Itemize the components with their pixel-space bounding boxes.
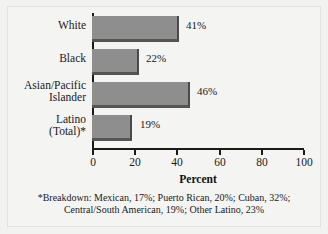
x-tick-mark-20 xyxy=(134,150,136,155)
bar-value-asian-pacific-islander: 46% xyxy=(197,85,217,97)
y-label-white: White xyxy=(0,19,86,32)
bar-value-white: 41% xyxy=(186,19,206,31)
bar-value-latino-total: 19% xyxy=(140,118,160,130)
x-tick-mark-0 xyxy=(92,150,94,155)
x-tick-mark-80 xyxy=(261,150,263,155)
y-label-latino-total-line1: Latino xyxy=(0,113,86,126)
y-label-black: Black xyxy=(0,52,86,65)
x-tick-label-0: 0 xyxy=(90,156,96,168)
chart-figure: White Black Asian/Pacific Islander Latin… xyxy=(0,0,328,234)
x-axis-line xyxy=(92,148,304,150)
x-tick-label-80: 80 xyxy=(256,156,268,168)
bar-black xyxy=(92,49,139,75)
x-axis-title: Percent xyxy=(92,173,304,185)
x-tick-label-20: 20 xyxy=(129,156,141,168)
x-tick-mark-100 xyxy=(303,150,305,155)
footnote: *Breakdown: Mexican, 17%; Puerto Rican, … xyxy=(14,192,314,215)
bar-value-black: 22% xyxy=(146,52,166,64)
x-tick-label-40: 40 xyxy=(171,156,183,168)
footnote-line-1: *Breakdown: Mexican, 17%; Puerto Rican, … xyxy=(14,192,314,204)
bar-latino-total xyxy=(92,115,132,141)
y-label-asian-pacific-islander-line2: Islander xyxy=(0,91,86,104)
x-tick-label-100: 100 xyxy=(295,156,312,168)
x-tick-mark-40 xyxy=(176,150,178,155)
x-tick-mark-60 xyxy=(219,150,221,155)
bar-white xyxy=(92,16,179,42)
x-tick-label-60: 60 xyxy=(214,156,226,168)
y-label-latino-total-line2: (Total)* xyxy=(0,125,86,138)
plot-area: 41% 22% 46% 19% xyxy=(92,14,304,147)
y-axis-labels: White Black Asian/Pacific Islander Latin… xyxy=(0,14,86,147)
y-label-asian-pacific-islander-line1: Asian/Pacific xyxy=(0,79,86,92)
footnote-line-2: Central/South American, 19%; Other Latin… xyxy=(14,204,314,216)
bar-asian-pacific-islander xyxy=(92,82,190,108)
